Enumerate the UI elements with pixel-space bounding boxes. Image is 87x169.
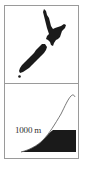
new-zealand-map bbox=[5, 6, 78, 83]
elevation-label: 1000 m bbox=[15, 125, 41, 135]
north-island-shape bbox=[43, 9, 66, 46]
map-panel bbox=[5, 6, 78, 84]
figure-frame: 1000 m bbox=[4, 5, 79, 159]
south-island-shape bbox=[19, 44, 47, 73]
stewart-island-shape bbox=[18, 75, 21, 77]
elevation-profile-panel: 1000 m bbox=[5, 84, 78, 158]
elevation-profile-chart bbox=[5, 84, 78, 158]
